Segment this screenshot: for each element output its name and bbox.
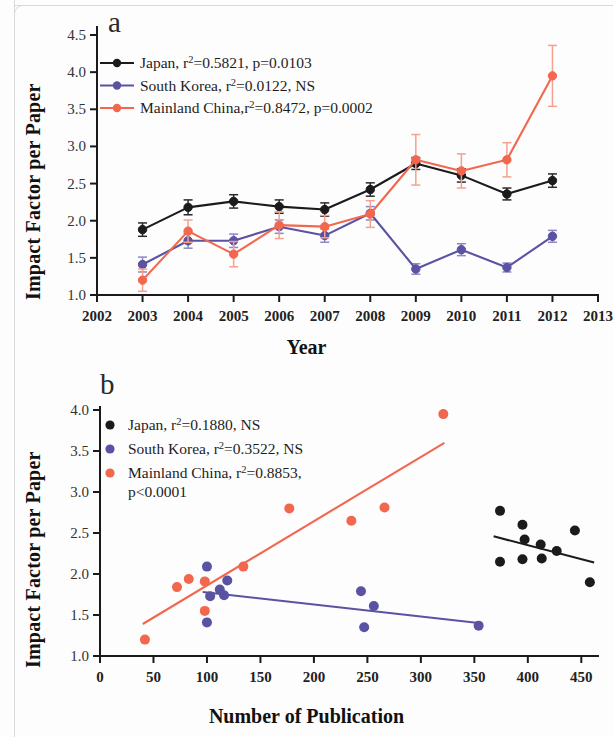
panel-a-plot: 1.01.52.02.53.03.54.04.52002200320042005… [0,0,613,330]
panel-a-legend-item-mainland-china: Mainland China,r2=0.8472, p=0.0002 [100,99,373,116]
panel-b-x-axis-title: Number of Publication [0,705,613,728]
data-point [200,606,210,616]
panel-b-legend-label-text: Mainland China, r2=0.8853, [128,464,302,481]
data-point [359,622,369,632]
panel-b-legend-label-text-line2: p<0.0001 [128,483,187,500]
panel-b-y-tick-label: 1.0 [70,648,89,664]
panel-b-svg: 1.01.52.02.53.03.54.00501001502002503003… [0,368,613,701]
panel-b-legend-label: Mainland China, r2=0.8853,p<0.0001 [128,464,302,500]
panel-b-legend-label: Japan, r2=0.1880, NS [128,416,260,433]
data-point [172,582,182,592]
data-point [552,546,562,556]
series-line [143,213,553,269]
panel-b-legend-label: South Korea, r2=0.3522, NS [128,440,303,457]
panel-b-y-tick-label: 2.5 [70,525,89,541]
data-point [517,554,527,564]
panel-a-legend-item-japan: Japan, r2=0.5821, p=0.0103 [100,54,312,71]
data-point [222,576,232,586]
panel-a-legend-label-text: South Korea, r2=0.0122, NS [140,77,315,94]
panel-a-x-tick-label: 2009 [401,308,431,324]
panel-b-y-tick-label: 3.0 [70,484,89,500]
panel-a-legend-label: South Korea, r2=0.0122, NS [140,77,315,94]
panel-b-legend-item-japan: Japan, r2=0.1880, NS [105,416,260,433]
data-point [202,562,212,572]
panel-a-x-tick-label: 2012 [537,308,567,324]
panel-b-x-tick-label: 0 [96,669,104,685]
panel-b-x-tick-label: 300 [410,669,433,685]
data-point [229,250,237,258]
panel-a-x-tick-label: 2002 [82,308,112,324]
panel-a-y-tick-label: 2.5 [67,176,86,192]
data-point [184,574,194,584]
data-point [321,222,329,230]
data-point [284,503,294,513]
panel-b-x-tick-label: 200 [303,669,326,685]
panel-a-y-tick-label: 1.0 [67,287,86,303]
data-point [202,617,212,627]
data-point [184,203,192,211]
data-point [275,202,283,210]
panel-a-y-tick-label: 4.0 [67,64,86,80]
panel-b-x-tick-label: 50 [146,669,161,685]
legend-marker [105,444,114,453]
panel-b-x-tick-label: 150 [249,669,272,685]
panel-b: b Impact Factor per Paper Number of Publ… [0,368,613,737]
panel-a-x-tick-label: 2006 [264,308,295,324]
data-point [412,156,420,164]
legend-marker [113,59,121,67]
panel-a-x-tick-label: 2010 [446,308,476,324]
data-point [520,535,530,545]
panel-a-y-tick-label: 4.5 [67,27,86,43]
panel-b-legend-label-text: Japan, r2=0.1880, NS [128,416,260,433]
data-point [140,635,150,645]
data-point [457,245,465,253]
panel-a-legend-label-text: Mainland China,r2=0.8472, p=0.0002 [140,99,373,116]
panel-a-y-tick-label: 2.0 [67,213,86,229]
data-point [366,210,374,218]
panel-b-legend-item-south-korea: South Korea, r2=0.3522, NS [105,440,303,457]
data-point [229,197,237,205]
panel-b-legend-item-mainland-china: Mainland China, r2=0.8853,p<0.0001 [105,464,301,500]
data-point [457,167,465,175]
panel-b-y-tick-label: 3.5 [70,443,89,459]
legend-marker [113,104,121,112]
data-point [503,263,511,271]
panel-a-x-tick-label: 2007 [310,308,341,324]
data-point [184,227,192,235]
panel-a-legend-label: Japan, r2=0.5821, p=0.0103 [140,54,312,71]
data-point [346,516,356,526]
panel-a: a Impact Factor per Paper Year 1.01.52.0… [0,0,613,370]
data-point [219,590,229,600]
panel-b-plot: 1.01.52.02.53.03.54.00501001502002503003… [0,368,613,701]
panel-a-x-tick-label: 2003 [128,308,158,324]
legend-marker [113,81,121,89]
data-point [495,506,505,516]
data-point [238,562,248,572]
panel-a-x-tick-label: 2013 [583,308,613,324]
data-point [138,225,146,233]
data-point [474,621,484,631]
data-point [356,586,366,596]
data-point [503,190,511,198]
panel-a-y-tick-label: 3.0 [67,138,86,154]
data-point [438,409,448,419]
panel-a-y-tick-label: 3.5 [67,101,86,117]
data-point [537,553,547,563]
data-point [412,265,420,273]
panel-a-y-tick-label: 1.5 [67,250,86,266]
panel-b-y-tick-label: 4.0 [70,402,89,418]
figure-root: a Impact Factor per Paper Year 1.01.52.0… [0,0,613,737]
data-point [200,576,210,586]
legend-marker [105,420,114,429]
data-point [369,601,379,611]
panel-a-series-south-korea [138,207,557,275]
panel-a-legend-item-south-korea: South Korea, r2=0.0122, NS [100,77,315,94]
panel-a-legend-label-text: Japan, r2=0.5821, p=0.0103 [140,54,312,71]
data-point [138,276,146,284]
data-point [548,72,556,80]
panel-b-y-tick-label: 1.5 [70,607,89,623]
legend-marker [105,468,114,477]
panel-a-x-tick-label: 2005 [219,308,249,324]
data-point [517,520,527,530]
panel-b-x-tick-label: 400 [517,669,540,685]
